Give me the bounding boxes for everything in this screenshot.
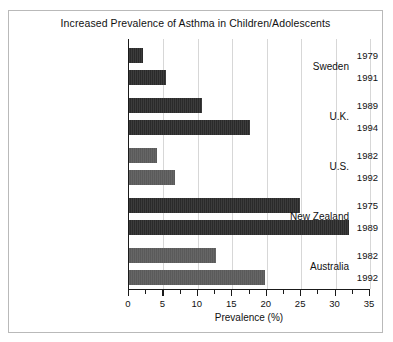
country-label-newzealand: New Zealand — [290, 210, 349, 224]
bar-sweden-1991 — [129, 70, 166, 85]
tick-minor-17.5 — [249, 290, 250, 294]
tick-label-10: 10 — [182, 298, 212, 309]
bar-uk-1989 — [129, 98, 202, 113]
tick-major-35 — [369, 290, 370, 296]
tick-label-20: 20 — [251, 298, 281, 309]
country-label-australia: Australia — [310, 260, 349, 274]
tick-minor-7.5 — [180, 290, 181, 294]
tick-major-25 — [300, 290, 301, 296]
tick-minor-12.5 — [214, 290, 215, 294]
chart-figure: Increased Prevalence of Asthma in Childr… — [8, 10, 383, 333]
chart-title: Increased Prevalence of Asthma in Childr… — [9, 17, 382, 29]
bar-us-1992 — [129, 170, 175, 185]
tick-major-30 — [335, 290, 336, 296]
tick-major-10 — [197, 290, 198, 296]
country-label-us: U.S. — [330, 160, 349, 174]
tick-minor-2.5 — [145, 290, 146, 294]
year-label-1982: 1982 — [357, 148, 378, 163]
bar-newzealand-1975 — [129, 198, 300, 213]
year-label-1991: 1991 — [357, 70, 378, 85]
year-label-1982: 1982 — [357, 248, 378, 263]
bar-australia-1992 — [129, 270, 265, 285]
year-label-1975: 1975 — [357, 198, 378, 213]
year-label-1989: 1989 — [357, 220, 378, 235]
tick-major-0 — [128, 290, 129, 296]
country-label-uk: U.K. — [330, 110, 349, 124]
tick-minor-27.5 — [317, 290, 318, 294]
tick-minor-32.5 — [352, 290, 353, 294]
year-label-1994: 1994 — [357, 120, 378, 135]
x-axis-title: Prevalence (%) — [128, 312, 370, 323]
tick-label-0: 0 — [113, 298, 143, 309]
tick-minor-22.5 — [283, 290, 284, 294]
tick-label-25: 25 — [285, 298, 315, 309]
year-label-1989: 1989 — [357, 98, 378, 113]
year-label-1992: 1992 — [357, 270, 378, 285]
tick-label-35: 35 — [354, 298, 384, 309]
year-label-1992: 1992 — [357, 170, 378, 185]
country-label-sweden: Sweden — [313, 60, 349, 74]
bar-us-1982 — [129, 148, 157, 163]
tick-label-30: 30 — [320, 298, 350, 309]
tick-label-5: 5 — [147, 298, 177, 309]
bar-australia-1982 — [129, 248, 216, 263]
tick-major-20 — [266, 290, 267, 296]
tick-major-5 — [162, 290, 163, 296]
bar-uk-1994 — [129, 120, 250, 135]
year-label-1979: 1979 — [357, 48, 378, 63]
bar-sweden-1979 — [129, 48, 143, 63]
tick-major-15 — [231, 290, 232, 296]
tick-label-15: 15 — [216, 298, 246, 309]
